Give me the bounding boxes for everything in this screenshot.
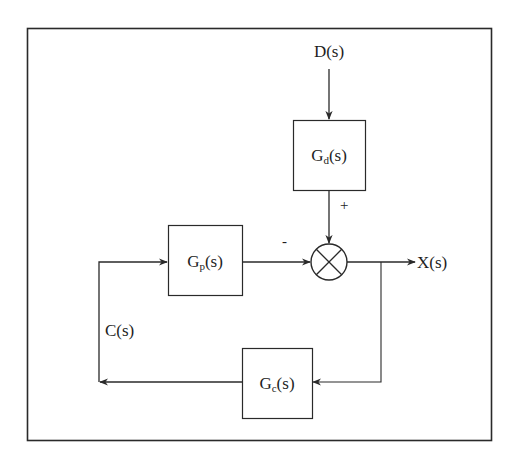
block-gc-label: Gc(s) xyxy=(259,374,294,394)
block-gp-label: Gp(s) xyxy=(187,252,223,272)
block-gd: Gd(s) xyxy=(294,121,366,191)
plus-sign: + xyxy=(340,197,348,213)
block-diagram: D(s) Gd(s) + Gp(s) - X(s) Gc(s) C(s) xyxy=(0,0,515,465)
summing-junction xyxy=(311,244,347,280)
disturbance-signal-label: D(s) xyxy=(314,42,344,61)
block-gp: Gp(s) xyxy=(169,226,243,296)
control-signal-label: C(s) xyxy=(105,321,134,340)
feedback-branch xyxy=(313,262,381,382)
block-gc: Gc(s) xyxy=(243,349,313,419)
block-gd-label: Gd(s) xyxy=(311,146,347,166)
minus-sign: - xyxy=(282,233,287,249)
output-signal-label: X(s) xyxy=(417,253,447,272)
